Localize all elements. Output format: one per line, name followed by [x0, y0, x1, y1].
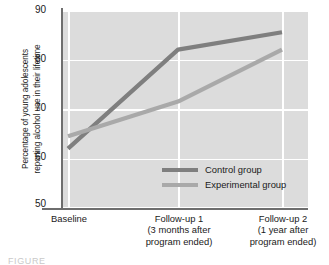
y-tick-label-60: 60	[35, 152, 57, 162]
x-tick-followup-2-sub-1: (1 year after	[239, 224, 327, 235]
y-axis-line	[61, 8, 63, 210]
chart-legend: Control group Experimental group	[162, 162, 286, 192]
x-tick-baseline-main: Baseline	[28, 213, 110, 224]
legend-label-experimental-group: Experimental group	[205, 179, 286, 190]
y-tick-label-70: 70	[35, 103, 57, 113]
y-tick-label-80: 80	[35, 54, 57, 64]
legend-item-experimental-group: Experimental group	[162, 177, 286, 192]
x-tick-followup-2-sub-2: program ended)	[239, 236, 327, 247]
figure-caption: FIGURE	[8, 256, 46, 265]
legend-swatch-control-group	[162, 168, 198, 172]
legend-label-control-group: Control group	[205, 164, 262, 175]
y-tick-label-90: 90	[35, 5, 57, 15]
line-experimental-group	[68, 50, 282, 137]
x-axis-line	[42, 208, 308, 210]
figure-chart: Percentage of young adolescents reportin…	[0, 0, 329, 265]
x-tick-label-followup-1: Follow-up 1 (3 months after program ende…	[135, 213, 223, 247]
x-tick-label-baseline: Baseline	[28, 213, 110, 224]
line-control-group	[68, 32, 282, 148]
y-axis-title-line-1: Percentage of young adolescents	[20, 45, 32, 174]
legend-swatch-experimental-group	[162, 183, 198, 187]
x-tick-label-followup-2: Follow-up 2 (1 year after program ended)	[239, 213, 327, 247]
legend-item-control-group: Control group	[162, 162, 286, 177]
x-tick-followup-1-main: Follow-up 1	[135, 213, 223, 224]
plot-area: Control group Experimental group	[62, 10, 308, 208]
x-tick-followup-1-sub-1: (3 months after	[135, 224, 223, 235]
x-tick-followup-1-sub-2: program ended)	[135, 236, 223, 247]
x-tick-followup-2-main: Follow-up 2	[239, 213, 327, 224]
